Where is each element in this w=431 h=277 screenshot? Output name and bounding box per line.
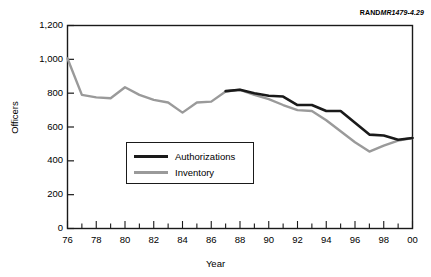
x-tick-label: 86 xyxy=(196,234,226,245)
x-tick-label: 84 xyxy=(168,234,198,245)
officers-line-chart: RANDMR1479-4.29 02004006008001,0001,200 … xyxy=(0,0,431,277)
x-tick-label: 00 xyxy=(398,234,428,245)
legend-label: Authorizations xyxy=(175,151,235,162)
chart-legend: AuthorizationsInventory xyxy=(126,142,254,184)
legend-item: Authorizations xyxy=(134,148,235,164)
legend-label: Inventory xyxy=(175,167,214,178)
series-line-inventory xyxy=(68,58,413,151)
x-tick-label: 92 xyxy=(283,234,313,245)
x-tick-label: 94 xyxy=(311,234,341,245)
x-tick-label: 80 xyxy=(110,234,140,245)
x-tick-label: 90 xyxy=(254,234,284,245)
x-tick-label: 82 xyxy=(139,234,169,245)
legend-item: Inventory xyxy=(134,164,214,180)
data-series-layer xyxy=(68,58,413,151)
x-tick-label: 78 xyxy=(81,234,111,245)
legend-swatch-inventory xyxy=(134,171,168,174)
x-tick-label: 76 xyxy=(53,234,83,245)
x-tick-label: 88 xyxy=(225,234,255,245)
legend-swatch-authorizations xyxy=(134,155,168,158)
x-tick-label: 96 xyxy=(340,234,370,245)
x-tick-label: 98 xyxy=(369,234,399,245)
